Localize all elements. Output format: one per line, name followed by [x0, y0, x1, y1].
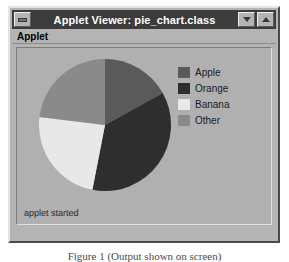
- legend-item-orange: Orange: [178, 81, 264, 96]
- applet-status-text: applet started: [24, 208, 79, 218]
- pie-slice-other: [39, 59, 105, 125]
- legend-swatch-orange: [178, 83, 190, 94]
- system-menu-button[interactable]: [14, 12, 31, 27]
- chevron-down-icon: [243, 17, 251, 22]
- legend-item-banana: Banana: [178, 97, 264, 112]
- menu-bar: Applet: [12, 29, 276, 44]
- legend-label-orange: Orange: [195, 83, 228, 94]
- legend-item-apple: Apple: [178, 65, 264, 80]
- figure-caption: Figure 1 (Output shown on screen): [0, 250, 289, 262]
- chart-legend: Apple Orange Banana Other: [178, 65, 264, 129]
- window-controls: [238, 12, 274, 27]
- legend-item-other: Other: [178, 113, 264, 128]
- maximize-button[interactable]: [257, 12, 274, 27]
- legend-label-apple: Apple: [195, 67, 221, 78]
- applet-canvas: Apple Orange Banana Other applet started: [16, 47, 272, 225]
- chevron-up-icon: [262, 17, 270, 22]
- legend-swatch-apple: [178, 67, 190, 78]
- menu-item-applet[interactable]: Applet: [12, 30, 52, 43]
- applet-viewer-window: Applet Viewer: pie_chart.class Applet: [8, 6, 280, 243]
- pie-slices: [39, 59, 171, 191]
- window-title: Applet Viewer: pie_chart.class: [31, 14, 238, 26]
- legend-label-banana: Banana: [195, 99, 229, 110]
- pie-chart: [37, 57, 173, 193]
- legend-swatch-other: [178, 115, 190, 126]
- title-bar[interactable]: Applet Viewer: pie_chart.class: [12, 10, 276, 29]
- minimize-box-icon: [18, 18, 27, 22]
- minimize-button[interactable]: [238, 12, 255, 27]
- legend-label-other: Other: [195, 115, 220, 126]
- legend-swatch-banana: [178, 99, 190, 110]
